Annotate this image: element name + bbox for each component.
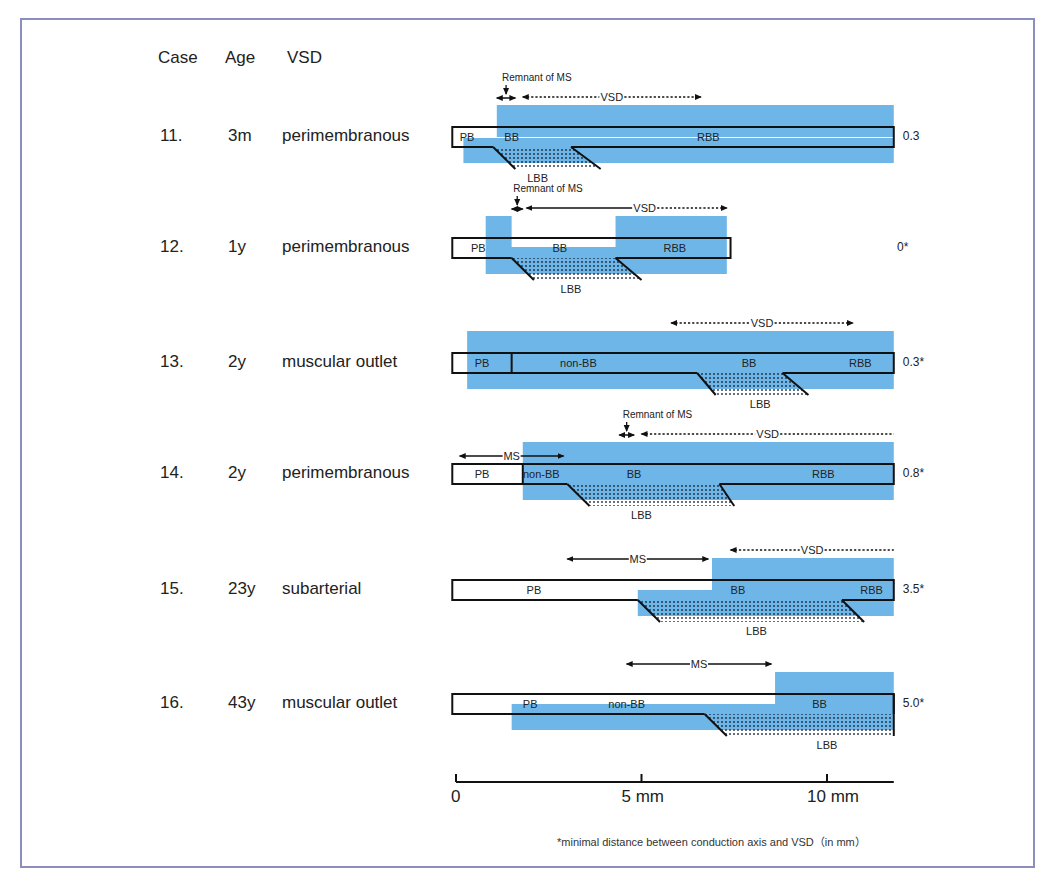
lbb-fan [711,389,809,395]
lbb-fan [721,730,894,736]
segment-label-rbb: RBB [664,242,687,254]
segment-label-rbb: RBB [812,468,835,480]
lbb-fan [654,616,864,622]
case-diagram: PBBBRBBLBB0.3Remnant of MSVSD [452,72,919,184]
case-diagram: PBBBRBBLBB0*Remnant of MSVSD [452,183,908,295]
segment-label-rbb: RBB [849,357,872,369]
segment-label-non-bb: non-BB [560,357,597,369]
segment-label-pb: PB [475,468,490,480]
scale-tick-label: 0 [451,787,460,806]
segment-label-rbb: RBB [860,584,883,596]
segment-label-pb: PB [460,131,475,143]
myocardium-region [775,672,894,704]
lbb-fan [567,484,730,500]
segment-label-non-bb: non-BB [523,468,560,480]
segment-label-pb: PB [523,698,538,710]
min-distance-value: 5.0* [903,696,925,710]
scale-bar: 05 mm10 mm [451,774,894,806]
segment-label-non-bb: non-BB [608,698,645,710]
min-distance-value: 3.5* [903,582,925,596]
ms-label: MS [691,658,708,670]
segment-label-bb: BB [627,468,642,480]
min-distance-value: 0.8* [903,466,925,480]
min-distance-value: 0.3* [903,355,925,369]
min-distance-value: 0.3 [903,129,920,143]
remnant-ms-label: Remnant of MS [623,409,693,420]
segment-label-pb: PB [471,242,486,254]
vsd-label: VSD [756,428,779,440]
vsd-label: VSD [633,202,656,214]
ms-label: MS [630,553,647,565]
segment-label-bb: BB [731,584,746,596]
myocardium-region [497,105,894,137]
vsd-label: VSD [601,91,624,103]
segment-label-bb: BB [812,698,827,710]
myocardium-region [467,331,894,389]
vsd-label: VSD [751,317,774,329]
segment-label-pb: PB [527,584,542,596]
segment-label-pb: PB [475,357,490,369]
scale-tick-label: 5 mm [622,787,665,806]
conduction-diagram: PBBBRBBLBB0.3Remnant of MSVSDPBBBRBBLBB0… [0,0,1047,886]
ms-label: MS [503,450,520,462]
lbb-label: LBB [817,739,838,751]
lbb-label: LBB [746,625,767,637]
scale-tick-label: 10 mm [807,787,859,806]
footnote: *minimal distance between conduction axi… [557,833,866,849]
lbb-label: LBB [631,509,652,521]
vsd-label: VSD [801,544,824,556]
lbb-fan [583,500,734,506]
case-diagram: PBnon-BBBBRBBLBB0.3*VSD [452,317,924,410]
lbb-fan [512,258,635,274]
lbb-fan [509,163,600,169]
lbb-fan [638,600,858,616]
min-distance-value: 0* [897,240,909,254]
segment-label-rbb: RBB [697,131,720,143]
segment-label-bb: BB [553,242,568,254]
lbb-fan [528,274,642,280]
segment-label-bb: BB [742,357,757,369]
lbb-fan [705,714,894,730]
lbb-label: LBB [750,398,771,410]
case-diagram: PBBBRBBLBB3.5*VSDMS [452,544,924,637]
lbb-label: LBB [561,283,582,295]
case-diagram: PBnon-BBBBRBBLBB0.8*Remnant of MSVSDMS [452,409,924,521]
segment-label-bb: BB [504,131,519,143]
remnant-ms-label: Remnant of MS [502,72,572,83]
case-diagram: PBnon-BBBBLBB5.0*MS [452,658,924,751]
remnant-ms-label: Remnant of MS [513,183,583,194]
